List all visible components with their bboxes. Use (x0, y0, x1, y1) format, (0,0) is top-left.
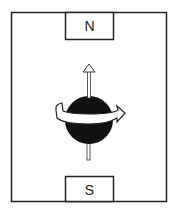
south-pole: S (66, 177, 114, 202)
spinning-particle (56, 64, 125, 160)
spin-arrow-up-icon (83, 64, 95, 98)
south-label: S (85, 182, 94, 198)
magnet-spin-diagram: N S (0, 0, 176, 209)
north-label: N (84, 18, 94, 34)
north-pole: N (66, 13, 114, 40)
